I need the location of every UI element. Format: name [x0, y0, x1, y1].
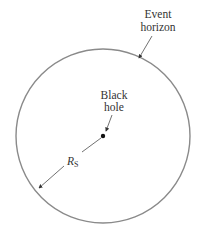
black-hole-label-line2: hole: [104, 101, 124, 113]
radius-label-subscript: S: [74, 160, 78, 169]
radius-arrow-upper: [82, 138, 101, 152]
event-horizon-label-line1: Event: [145, 8, 173, 20]
black-hole-pointer-arrow: [106, 115, 112, 131]
black-hole-label-line1: Black: [101, 89, 128, 101]
black-hole-diagram: Event horizon Black hole RS: [0, 0, 198, 226]
schwarzschild-radius-label: RS: [66, 155, 78, 169]
radius-label-main: R: [66, 155, 74, 167]
event-horizon-pointer-arrow: [139, 36, 152, 58]
radius-arrow-lower: [39, 166, 64, 188]
event-horizon-label-line2: horizon: [140, 21, 175, 33]
black-hole-dot: [101, 134, 105, 138]
